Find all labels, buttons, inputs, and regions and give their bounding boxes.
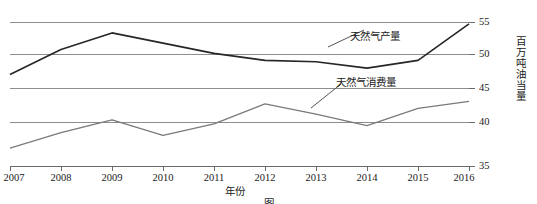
y-tick-label-45: 45 [479,82,490,94]
x-tick-2011 [214,166,215,171]
x-tick-label-2012: 2012 [255,172,276,184]
x-tick-2008 [61,166,62,171]
y-tick-label-50: 50 [479,48,490,60]
y-tick-mark-35 [469,166,475,167]
x-tick-label-2010: 2010 [153,172,174,184]
x-tick-label-2013: 2013 [306,172,327,184]
x-tick-2009 [112,166,113,171]
x-tick-2014 [367,166,368,171]
x-tick-label-2008: 2008 [51,172,72,184]
series-plot [10,22,469,166]
series-label-consumption: 天然气消费量 [336,76,396,89]
x-tick-2015 [418,166,419,171]
y-tick-mark-50 [469,54,475,55]
y-tick-label-35: 35 [479,160,490,172]
y-tick-mark-45 [469,88,475,89]
y-tick-mark-55 [469,22,475,23]
figure-container: 天然气产量 天然气消费量 2007 2008 2009 2010 2011 20… [0,0,537,204]
x-tick-2007 [10,166,11,171]
x-tick-2013 [316,166,317,171]
y-tick-label-40: 40 [479,116,490,128]
y-axis-title: 百万吨油当量 [512,36,526,102]
x-tick-label-2016: 2016 [454,172,475,184]
x-tick-label-2011: 2011 [204,172,225,184]
line-production [10,24,469,75]
y-tick-mark-40 [469,122,475,123]
series-label-production: 天然气产量 [350,30,400,43]
line-consumption [10,101,469,148]
x-tick-label-2007: 2007 [4,172,25,184]
figure-caption: 图 [0,197,537,204]
x-axis-line [10,166,469,167]
y-tick-label-55: 55 [479,16,490,28]
x-tick-2012 [265,166,266,171]
x-tick-label-2014: 2014 [357,172,378,184]
x-tick-label-2015: 2015 [408,172,429,184]
x-tick-2010 [163,166,164,171]
x-tick-label-2009: 2009 [102,172,123,184]
